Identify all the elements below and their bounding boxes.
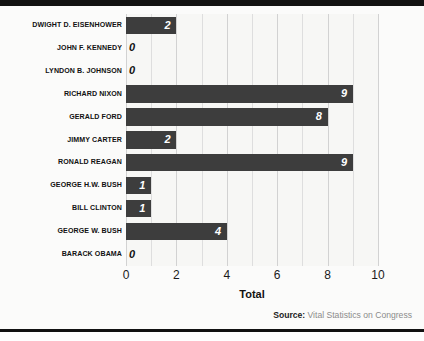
category-label: RICHARD NIXON bbox=[9, 83, 122, 106]
bar-row[interactable]: 0 bbox=[126, 37, 424, 60]
bar-value-label: 0 bbox=[129, 246, 143, 264]
bar-row[interactable]: 2 bbox=[126, 14, 424, 37]
x-axis-title: Total bbox=[126, 288, 378, 300]
x-tick-label: 8 bbox=[308, 268, 348, 282]
bar-value-label: 2 bbox=[154, 17, 170, 35]
bottom-margin bbox=[0, 332, 424, 341]
category-label: JOHN F. KENNEDY bbox=[9, 37, 122, 60]
bar-row[interactable]: 9 bbox=[126, 151, 424, 174]
category-label: GERALD FORD bbox=[9, 106, 122, 129]
bar-value-label: 1 bbox=[129, 177, 145, 195]
category-label: GEORGE W. BUSH bbox=[9, 220, 122, 243]
bar-value-label: 9 bbox=[331, 154, 347, 172]
category-label: JIMMY CARTER bbox=[9, 129, 122, 152]
category-label: GEORGE H.W. BUSH bbox=[9, 174, 122, 197]
bar-row[interactable]: 8 bbox=[126, 106, 424, 129]
bar-value-label: 0 bbox=[129, 39, 143, 57]
x-tick-label: 4 bbox=[207, 268, 247, 282]
x-tick-label: 2 bbox=[156, 268, 196, 282]
bar-row[interactable]: 4 bbox=[126, 220, 424, 243]
bar-value-label: 8 bbox=[306, 108, 322, 126]
bar[interactable] bbox=[126, 154, 353, 172]
x-tick-label: 0 bbox=[106, 268, 146, 282]
x-tick-label: 6 bbox=[257, 268, 297, 282]
source-text: Vital Statistics on Congress bbox=[305, 310, 412, 320]
chart-figure: DWIGHT D. EISENHOWERJOHN F. KENNEDYLYNDO… bbox=[0, 0, 424, 341]
category-label: RONALD REAGAN bbox=[9, 151, 122, 174]
category-label: BARACK OBAMA bbox=[9, 243, 122, 266]
bar[interactable] bbox=[126, 85, 353, 103]
bar-value-label: 2 bbox=[154, 131, 170, 149]
bar[interactable] bbox=[126, 108, 328, 126]
source-label: Source: bbox=[273, 310, 305, 320]
bar-value-label: 1 bbox=[129, 200, 145, 218]
x-tick-label: 10 bbox=[358, 268, 398, 282]
bar-value-label: 9 bbox=[331, 85, 347, 103]
bar-row[interactable]: 9 bbox=[126, 83, 424, 106]
bar-value-label: 4 bbox=[205, 223, 221, 241]
bar-series: 20098291140 bbox=[126, 14, 424, 266]
category-label: LYNDON B. JOHNSON bbox=[9, 60, 122, 83]
category-label: DWIGHT D. EISENHOWER bbox=[9, 14, 122, 37]
bar-row[interactable]: 0 bbox=[126, 60, 424, 83]
bar-row[interactable]: 1 bbox=[126, 197, 424, 220]
category-label: BILL CLINTON bbox=[9, 197, 122, 220]
source-note: Source: Vital Statistics on Congress bbox=[273, 310, 412, 320]
x-axis-tick-labels: 0246810 bbox=[126, 268, 378, 284]
category-axis-labels: DWIGHT D. EISENHOWERJOHN F. KENNEDYLYNDO… bbox=[0, 14, 122, 266]
bar-row[interactable]: 1 bbox=[126, 174, 424, 197]
bar-value-label: 0 bbox=[129, 62, 143, 80]
top-divider-rule bbox=[0, 0, 424, 6]
bar-row[interactable]: 2 bbox=[126, 129, 424, 152]
bar-row[interactable]: 0 bbox=[126, 243, 424, 266]
